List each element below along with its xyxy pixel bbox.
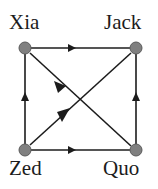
- node-zed[interactable]: [19, 144, 31, 156]
- edge-xia-jack: [31, 44, 130, 52]
- arrowhead-zed-xia: [21, 92, 29, 101]
- node-label-zed: Zed: [9, 158, 42, 179]
- node-quo[interactable]: [130, 144, 142, 156]
- edge-layer: [21, 44, 140, 154]
- node-label-jack: Jack: [104, 12, 141, 33]
- directed-graph-figure: Xia Jack Zed Quo: [0, 0, 158, 189]
- arrowhead-zed-jack: [57, 108, 70, 122]
- node-xia[interactable]: [19, 42, 31, 54]
- node-label-xia: Xia: [9, 12, 39, 33]
- edge-zed-xia: [21, 54, 29, 144]
- edge-quo-jack: [132, 54, 140, 144]
- node-label-quo: Quo: [103, 158, 139, 179]
- arrowhead-quo-jack: [132, 92, 140, 101]
- arrowhead-xia-quo: [54, 81, 66, 93]
- arrowhead-xia-jack: [68, 44, 76, 52]
- edge-zed-quo: [31, 146, 130, 154]
- arrowhead-zed-quo: [68, 146, 76, 154]
- node-jack[interactable]: [130, 42, 142, 54]
